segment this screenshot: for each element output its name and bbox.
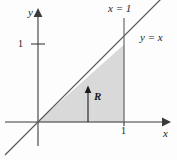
- y-axis-label: y: [28, 7, 33, 18]
- shaded-region-R: [38, 45, 124, 122]
- y-axis-arrowhead: [34, 8, 43, 17]
- vertical-line-equation-label: x = 1: [108, 3, 131, 14]
- x-tick-label-1: 1: [121, 126, 126, 136]
- diagonal-line-equation-label: y = x: [140, 32, 163, 43]
- y-tick-label-1: 1: [18, 39, 23, 49]
- graph-canvas: [0, 0, 177, 160]
- region-label-R: R: [94, 91, 101, 102]
- math-figure: y x 1 1 x = 1 y = x R: [0, 0, 177, 160]
- x-axis-label: x: [163, 128, 168, 139]
- x-axis-arrowhead: [162, 118, 171, 127]
